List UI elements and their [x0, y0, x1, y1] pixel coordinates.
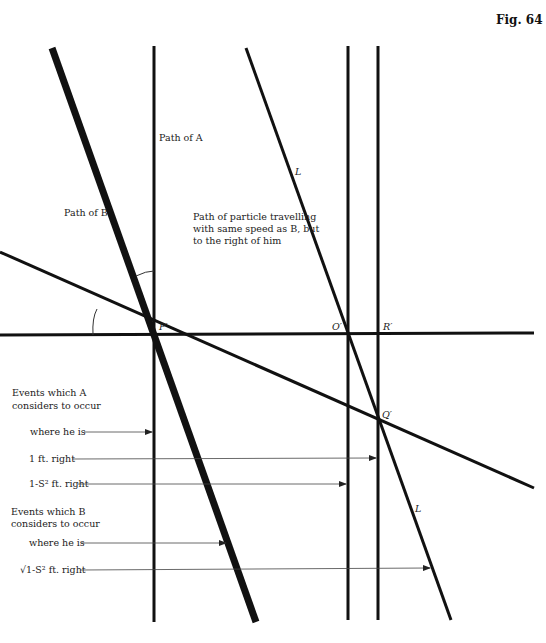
figure-title: Fig. 64 [496, 13, 543, 27]
arrow-a-1ft-right [72, 458, 376, 459]
events-b-heading-line2: considers to occur [11, 518, 100, 529]
particle-label-line3: to the right of him [193, 235, 281, 246]
simultaneity-line-b [0, 252, 534, 488]
events-a-item-label: where he is [30, 426, 86, 437]
particle-label-line2: with same speed as B, but [193, 223, 319, 234]
angle-arc-horizontal [93, 309, 97, 335]
events-b-item-label: √1-S² ft. right [20, 564, 86, 575]
point-r-label: R′ [382, 321, 393, 332]
horizontal-line-a [0, 333, 534, 335]
line-l-label-top: L [294, 166, 301, 177]
events-b-item-label: where he is [29, 537, 85, 548]
line-l-label-bottom: L [414, 503, 421, 514]
particle-label-line1: Path of particle travelling [193, 211, 316, 222]
point-p-label: P′ [158, 321, 168, 332]
events-a-heading-line2: considers to occur [12, 400, 101, 411]
point-q-label: Q′ [382, 409, 393, 420]
spacetime-diagram: Fig. 64 Path of A Path of B Path of part… [0, 0, 546, 643]
path-of-a-label: Path of A [159, 132, 203, 143]
events-b-heading-line1: Events which B [11, 506, 86, 517]
path-of-b-label: Path of B [64, 207, 108, 218]
events-a-item-label: 1 ft. right [29, 453, 75, 464]
events-a-heading-line1: Events which A [12, 387, 87, 398]
angle-arc-vertical [136, 271, 154, 276]
point-o-label: O′ [332, 321, 343, 332]
events-a-item-label: 1-S² ft. right [29, 478, 89, 489]
